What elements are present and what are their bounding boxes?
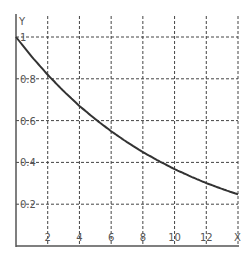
y-tick-label: 0.2 xyxy=(20,199,36,210)
x-tick-label: 10 xyxy=(168,232,181,243)
y-axis-label: Y xyxy=(18,16,26,27)
axes xyxy=(16,14,239,247)
y-tick-label: 0.4 xyxy=(20,157,36,168)
y-tick-label: 0.6 xyxy=(20,116,36,127)
data-curve xyxy=(16,37,238,194)
line-chart: 246810120.20.40.60.81 X Y xyxy=(0,0,251,261)
y-tick-label: 1 xyxy=(20,32,26,43)
x-tick-label: 6 xyxy=(108,232,114,243)
x-tick-label: 12 xyxy=(200,232,213,243)
x-tick-label: 2 xyxy=(45,232,51,243)
y-tick-label: 0.8 xyxy=(20,74,36,85)
grid-lines xyxy=(16,16,238,246)
x-tick-label: 4 xyxy=(76,232,82,243)
x-tick-label: 8 xyxy=(140,232,146,243)
x-axis-label: X xyxy=(234,232,241,243)
tick-labels: 246810120.20.40.60.81 xyxy=(20,32,213,243)
